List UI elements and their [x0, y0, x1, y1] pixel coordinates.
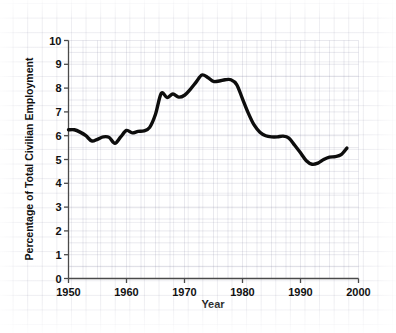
svg-text:8: 8: [55, 82, 61, 94]
svg-text:2000: 2000: [346, 286, 370, 298]
svg-text:1960: 1960: [114, 286, 138, 298]
svg-text:10: 10: [49, 35, 61, 47]
svg-text:6: 6: [55, 130, 61, 142]
svg-text:5: 5: [55, 154, 61, 166]
x-axis-title: Year: [201, 298, 225, 310]
svg-text:0: 0: [55, 273, 61, 285]
y-axis-tick-labels: 012345678910: [49, 35, 62, 285]
chart-figure: 012345678910 195019601970198019902000 Pe…: [0, 0, 396, 333]
y-axis-title: Percentage of Total Civilian Employment: [23, 57, 35, 260]
svg-text:4: 4: [55, 177, 62, 189]
svg-text:1950: 1950: [56, 286, 80, 298]
svg-text:1990: 1990: [288, 286, 312, 298]
svg-text:9: 9: [55, 58, 61, 70]
svg-text:1970: 1970: [172, 286, 196, 298]
x-axis-tick-labels: 195019601970198019902000: [56, 286, 370, 298]
x-axis-ticks: [69, 279, 359, 284]
svg-text:3: 3: [55, 201, 61, 213]
svg-text:7: 7: [55, 106, 61, 118]
svg-text:2: 2: [55, 225, 61, 237]
svg-text:1: 1: [55, 249, 61, 261]
svg-text:1980: 1980: [230, 286, 254, 298]
line-chart-svg: 012345678910 195019601970198019902000 Pe…: [0, 0, 396, 333]
plot-gridlines: [69, 41, 359, 279]
y-axis-ticks: [64, 41, 69, 279]
